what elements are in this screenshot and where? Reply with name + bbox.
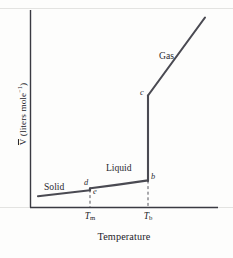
- phase-label-solid: Solid: [44, 181, 64, 192]
- curve-liquid-branch: [90, 180, 148, 188]
- x-tick-label-tm: Tm: [76, 211, 104, 221]
- curve-gas-branch: [148, 18, 205, 96]
- point-label-d: d: [84, 178, 88, 187]
- x-axis-label: Temperature: [30, 231, 218, 242]
- y-axis-label-close: ): [18, 83, 28, 86]
- x-tick-tm-subscript: m: [90, 214, 95, 221]
- y-axis-label-symbol: V: [18, 139, 28, 146]
- x-tick-tb-subscript: b: [149, 214, 152, 221]
- y-axis-label-rest: (liters mole: [18, 93, 28, 139]
- point-label-e: e: [93, 187, 97, 196]
- phase-label-liquid: Liquid: [106, 162, 132, 173]
- x-tick-label-tb: Tb: [134, 211, 162, 221]
- point-label-c: c: [140, 88, 144, 97]
- y-axis-label: V (liters mole−1): [16, 54, 28, 174]
- y-axis-label-exponent: −1: [16, 86, 23, 93]
- phase-label-gas: Gas: [159, 50, 174, 61]
- point-label-b: b: [151, 172, 155, 181]
- figure-molar-volume-vs-temperature: V (liters mole−1) Temperature Solid Liqu…: [0, 0, 233, 258]
- plot-area: [0, 0, 233, 258]
